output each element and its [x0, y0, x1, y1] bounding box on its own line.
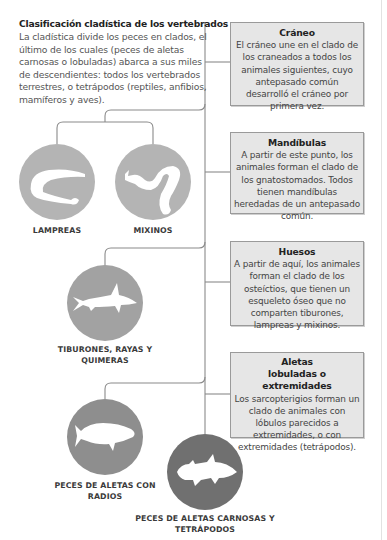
clade-box-huesos: Huesos A partir de aquí, los animales fo…: [230, 241, 364, 326]
lamprey-circle: [19, 144, 95, 220]
hagfish-icon: [115, 144, 191, 220]
intro-block: Clasificación cladística de los vertebra…: [19, 18, 209, 106]
box-text: El cráneo une en el clado de los cranead…: [231, 39, 363, 112]
lamprey-icon: [19, 144, 95, 220]
shark-circle: [67, 265, 143, 341]
group-label-lampreas: LAMPREAS: [19, 226, 95, 237]
box-text: Los sarcopterigios forman un clado de an…: [231, 393, 363, 454]
ray-finned-fish-icon: [67, 399, 143, 475]
group-label-con-radios: PECES DE ALETAS CON RADIOS: [40, 481, 170, 502]
box-text: A partir de este punto, los animales for…: [231, 149, 363, 222]
coelacanth-circle: [167, 434, 243, 510]
ray-finned-fish-circle: [67, 399, 143, 475]
clade-box-aletas-lobuladas: Aletas lobuladas o extremidades Los sarc…: [230, 352, 364, 438]
hagfish-circle: [115, 144, 191, 220]
box-text: A partir de aquí, los animales forman el…: [231, 258, 363, 331]
group-label-carnosas: PECES DE ALETAS CARNOSAS Y TETRÁPODOS: [134, 514, 276, 535]
coelacanth-icon: [167, 434, 243, 510]
box-title: Mandíbulas: [231, 137, 363, 149]
shark-icon: [67, 265, 143, 341]
box-title: Aletas lobuladas o extremidades: [231, 356, 363, 393]
box-title: Huesos: [231, 246, 363, 258]
group-label-mixinos: MIXINOS: [115, 226, 191, 237]
intro-title: Clasificación cladística de los vertebra…: [19, 18, 209, 30]
group-label-tiburones: TIBURONES, RAYAS Y QUIMERAS: [40, 345, 170, 366]
clade-box-mandibulas: Mandíbulas A partir de este punto, los a…: [230, 132, 364, 214]
clade-box-craneo: Cráneo El cráneo une en el clado de los …: [230, 22, 364, 106]
intro-text: La cladística divide los peces en clados…: [19, 31, 209, 106]
box-title: Cráneo: [231, 27, 363, 39]
